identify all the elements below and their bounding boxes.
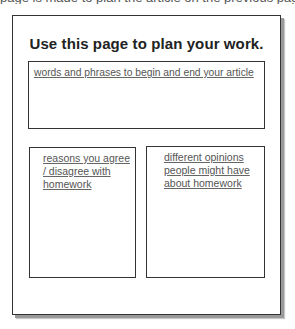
beginning-ending-phrases-label: words and phrases to begin and end your … [34,66,254,79]
different-opinions-box[interactable]: different opinions people might have abo… [146,146,265,278]
different-opinions-label: different opinions people might have abo… [164,151,259,190]
agree-disagree-reasons-label: reasons you agree / disagree with homewo… [43,152,133,191]
page-title: Use this page to plan your work. [13,35,280,52]
cutoff-previous-text: page is made to plan the article on the … [0,0,295,4]
agree-disagree-reasons-box[interactable]: reasons you agree / disagree with homewo… [29,147,136,278]
beginning-ending-phrases-box[interactable]: words and phrases to begin and end your … [28,61,265,129]
planning-page-frame: Use this page to plan your work. words a… [12,15,281,315]
